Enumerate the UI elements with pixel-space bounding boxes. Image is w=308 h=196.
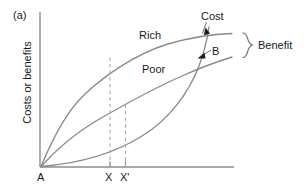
figure-panel-a: (a) Costs or benefits Rich Poor Cost B B… [0,0,308,196]
curve-label-rich: Rich [139,30,161,41]
panel-label: (a) [13,10,26,21]
curve-label-cost: Cost [201,11,224,22]
curve-label-poor: Poor [142,64,165,75]
x-tick-label-xprime: X' [120,172,129,183]
point-label-b: B [212,46,219,57]
x-tick-label-x: X [105,172,112,183]
arrowhead-point-b [198,53,206,59]
x-tick-label-a: A [37,172,44,183]
brace-label-benefit: Benefit [258,40,292,51]
benefit-brace [243,33,253,58]
y-axis-title: Costs or benefits [22,23,33,143]
